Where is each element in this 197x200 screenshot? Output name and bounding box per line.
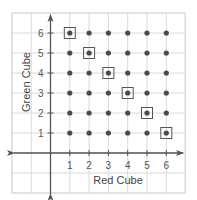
- data-point: [125, 70, 130, 75]
- data-point: [87, 30, 92, 35]
- x-tick-label: 4: [125, 160, 131, 171]
- data-point: [67, 130, 72, 135]
- y-tick-label: 5: [38, 48, 44, 59]
- y-tick-label: 1: [38, 128, 44, 139]
- data-point: [87, 70, 92, 75]
- x-tick-label: 3: [106, 160, 112, 171]
- data-point: [106, 30, 111, 35]
- data-point: [164, 30, 169, 35]
- data-point: [144, 50, 149, 55]
- data-point: [87, 110, 92, 115]
- data-point: [87, 90, 92, 95]
- data-point: [125, 50, 130, 55]
- data-point: [164, 70, 169, 75]
- x-axis-label: Red Cube: [93, 174, 143, 186]
- x-tick-label: 6: [164, 160, 170, 171]
- axes: [14, 15, 183, 194]
- data-point: [87, 130, 92, 135]
- x-tick-label: 2: [86, 160, 92, 171]
- data-point: [67, 110, 72, 115]
- data-point: [106, 50, 111, 55]
- data-point: [106, 130, 111, 135]
- data-point: [106, 110, 111, 115]
- data-point: [164, 90, 169, 95]
- sample-space-chart: 123456123456 Red Cube Green Cube: [0, 0, 197, 200]
- data-point: [67, 70, 72, 75]
- highlight-boxes: [64, 28, 172, 139]
- data-point: [164, 50, 169, 55]
- grid-lines: [12, 13, 186, 193]
- data-point: [125, 90, 130, 95]
- data-point: [125, 130, 130, 135]
- data-point: [125, 30, 130, 35]
- data-point: [106, 70, 111, 75]
- y-axis-label: Green Cube: [20, 52, 32, 112]
- data-point: [144, 90, 149, 95]
- data-point: [144, 130, 149, 135]
- y-tick-label: 4: [38, 68, 44, 79]
- data-point: [144, 110, 149, 115]
- y-tick-label: 2: [38, 108, 44, 119]
- data-point: [125, 110, 130, 115]
- data-point: [67, 30, 72, 35]
- data-point: [164, 110, 169, 115]
- data-point: [106, 90, 111, 95]
- y-tick-label: 6: [38, 28, 44, 39]
- data-point: [164, 130, 169, 135]
- x-tick-label: 1: [67, 160, 73, 171]
- data-point: [67, 50, 72, 55]
- data-point: [87, 50, 92, 55]
- data-point: [144, 70, 149, 75]
- data-point: [144, 30, 149, 35]
- data-point: [67, 90, 72, 95]
- y-tick-label: 3: [38, 88, 44, 99]
- data-points: [67, 30, 169, 135]
- tick-labels: 123456123456: [38, 28, 170, 172]
- x-tick-label: 5: [144, 160, 150, 171]
